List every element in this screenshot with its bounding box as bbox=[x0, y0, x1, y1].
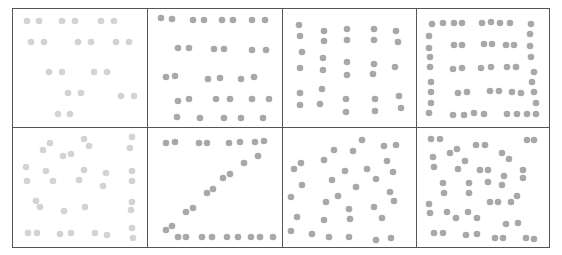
dot bbox=[450, 66, 457, 73]
dot bbox=[387, 189, 394, 196]
dot bbox=[426, 201, 433, 208]
dot bbox=[507, 20, 514, 27]
dot bbox=[497, 20, 504, 27]
dot bbox=[68, 230, 75, 237]
dot bbox=[252, 139, 259, 146]
dot bbox=[533, 100, 540, 107]
dot bbox=[227, 171, 234, 178]
dot bbox=[427, 64, 434, 71]
dot bbox=[129, 134, 136, 141]
dot bbox=[471, 110, 478, 117]
dot bbox=[235, 234, 242, 241]
panel-r2c1 bbox=[13, 128, 148, 248]
dot bbox=[523, 235, 530, 242]
dot bbox=[477, 167, 484, 174]
dot bbox=[82, 204, 89, 211]
dot bbox=[217, 75, 224, 82]
dot bbox=[323, 199, 330, 206]
dot bbox=[533, 111, 540, 118]
dot bbox=[481, 41, 488, 48]
dot bbox=[372, 96, 379, 103]
dot bbox=[81, 136, 88, 143]
dot bbox=[346, 234, 353, 241]
dot bbox=[129, 168, 136, 175]
dot bbox=[59, 69, 66, 76]
dot bbox=[393, 142, 400, 149]
dot bbox=[514, 111, 521, 118]
dot bbox=[113, 39, 120, 46]
dot bbox=[487, 199, 494, 206]
dot bbox=[451, 20, 458, 27]
dot bbox=[466, 180, 473, 187]
dot bbox=[428, 79, 435, 86]
dot bbox=[317, 101, 324, 108]
dot bbox=[426, 110, 433, 117]
dot bbox=[462, 158, 469, 165]
dot bbox=[270, 234, 277, 241]
dot bbox=[61, 208, 68, 215]
dot bbox=[241, 160, 248, 167]
dot bbox=[43, 168, 50, 175]
dot bbox=[221, 46, 228, 53]
dot bbox=[249, 96, 256, 103]
dot bbox=[251, 74, 258, 81]
dot bbox=[466, 190, 473, 197]
dot bbox=[98, 18, 105, 25]
dot bbox=[209, 234, 216, 241]
dot bbox=[453, 215, 460, 222]
dot bbox=[509, 89, 516, 96]
dot bbox=[459, 42, 466, 49]
dot bbox=[111, 18, 118, 25]
dot bbox=[288, 194, 295, 201]
dot bbox=[531, 236, 538, 243]
dot bbox=[388, 235, 395, 242]
dot bbox=[213, 96, 220, 103]
dot bbox=[478, 65, 485, 72]
dot bbox=[294, 214, 301, 221]
dot bbox=[430, 154, 437, 161]
dot bbox=[100, 183, 107, 190]
dot bbox=[501, 173, 508, 180]
dot bbox=[440, 230, 447, 237]
dot bbox=[249, 17, 256, 24]
dot bbox=[503, 42, 510, 49]
dot bbox=[428, 100, 435, 107]
dot bbox=[396, 93, 403, 100]
dot bbox=[60, 153, 67, 160]
dot bbox=[474, 231, 481, 238]
dot bbox=[455, 166, 462, 173]
dot-pattern-grid bbox=[0, 0, 562, 255]
dot bbox=[437, 136, 444, 143]
dot bbox=[172, 139, 179, 146]
dot bbox=[249, 47, 256, 54]
dot bbox=[429, 21, 436, 28]
dot bbox=[391, 198, 398, 205]
dot bbox=[390, 169, 397, 176]
dot bbox=[163, 227, 170, 234]
dot bbox=[344, 37, 351, 44]
dot bbox=[441, 190, 448, 197]
dot bbox=[372, 108, 379, 115]
dot bbox=[343, 96, 350, 103]
dot bbox=[489, 41, 496, 48]
dot bbox=[463, 232, 470, 239]
dot bbox=[76, 177, 83, 184]
dot bbox=[531, 137, 538, 144]
dot bbox=[175, 45, 182, 52]
dot bbox=[186, 96, 193, 103]
panel-r1c2 bbox=[148, 9, 283, 128]
dot bbox=[199, 234, 206, 241]
dot bbox=[299, 182, 306, 189]
dot bbox=[257, 234, 264, 241]
dot bbox=[461, 112, 468, 119]
dot bbox=[24, 178, 31, 185]
dot bbox=[515, 220, 522, 227]
dot bbox=[261, 138, 268, 145]
dot bbox=[440, 20, 447, 27]
dot bbox=[450, 112, 457, 119]
dot bbox=[529, 79, 536, 86]
dot bbox=[210, 186, 217, 193]
dot bbox=[321, 217, 328, 224]
dot bbox=[454, 146, 461, 153]
dot bbox=[371, 61, 378, 68]
